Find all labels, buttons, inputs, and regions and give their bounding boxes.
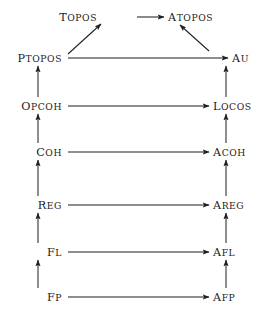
node-fp: FP [0,292,62,303]
diagram-edges [38,17,228,297]
node-ptopos: PTOPOS [0,53,62,64]
node-afl: AFL [213,247,235,258]
node-afp: AFP [213,292,235,303]
node-acoh: ACOH [213,147,246,158]
node-fl: FL [0,247,62,258]
node-reg: REG [0,200,62,211]
node-au: AU [232,53,249,64]
arrow-au-to-atopos [180,25,209,51]
commutative-diagram: TOPOSATOPOSPTOPOSAUOPCOHLOCOSCOHACOHREGA… [0,0,262,310]
arrow-ptopos-to-topos [68,24,101,54]
node-opcoh: OPCOH [0,101,62,112]
node-areg: AREG [213,200,244,211]
node-coh: COH [0,147,62,158]
node-atopos: ATOPOS [168,12,213,23]
node-topos: TOPOS [0,12,97,23]
node-locos: LOCOS [213,101,252,112]
